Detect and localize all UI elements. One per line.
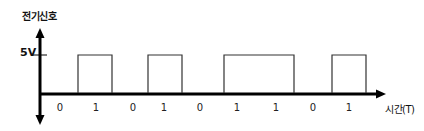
bit-label: 1	[234, 102, 240, 113]
y-axis-title: 전기신호	[22, 8, 56, 23]
bit-label: 0	[310, 102, 316, 113]
y-axis-arrow-up-icon	[36, 28, 45, 38]
bit-label: 1	[273, 102, 279, 113]
diagram-canvas	[0, 0, 424, 131]
bit-label: 0	[57, 102, 63, 113]
signal-diagram: 전기신호 5V 시간(T) 0 1 0 1 0 1 1 0 1	[0, 0, 424, 131]
signal-pulse	[224, 55, 294, 93]
signal-pulse	[148, 55, 182, 93]
bit-label: 1	[346, 102, 352, 113]
bit-label: 1	[161, 102, 167, 113]
bit-label: 0	[197, 102, 203, 113]
y-axis-arrow-down-icon	[36, 115, 45, 125]
x-axis-arrow-icon	[376, 90, 386, 99]
x-axis-title: 시간(T)	[385, 101, 414, 116]
bit-label: 1	[93, 102, 99, 113]
high-level-label: 5V	[20, 46, 36, 59]
bit-label: 0	[130, 102, 136, 113]
signal-pulse	[332, 55, 366, 93]
signal-pulse	[78, 55, 112, 93]
signal-waveform	[78, 55, 366, 93]
